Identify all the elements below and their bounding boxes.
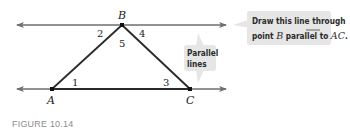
callout-draw-line-text-2: point B parallel to AC. (252, 30, 348, 41)
callout-parallel-text-2: lines (187, 59, 207, 69)
angle-5: 5 (119, 38, 125, 49)
angle-1: 1 (72, 77, 78, 88)
point-c (188, 87, 192, 91)
point-a (50, 87, 54, 91)
callout-parallel-text-1: Parallel (187, 48, 218, 58)
callout-parallel-lines (184, 33, 216, 83)
point-b-ref: B (275, 30, 283, 41)
label-b: B (117, 9, 126, 22)
segment-bc (122, 25, 190, 89)
angle-4: 4 (139, 28, 145, 39)
angle-3: 3 (163, 77, 169, 88)
label-c: C (186, 94, 195, 107)
angle-2: 2 (97, 28, 103, 39)
label-a: A (46, 94, 55, 107)
callout-draw-line-text-1: Draw this line through (252, 16, 345, 26)
segment-ab (52, 25, 122, 89)
figure-caption: FIGURE 10.14 (12, 119, 73, 129)
point-b (120, 23, 124, 27)
segment-ac-ref: AC (330, 30, 346, 41)
geometry-figure: A B C 1 2 5 4 3 Draw this line through p… (0, 0, 350, 131)
